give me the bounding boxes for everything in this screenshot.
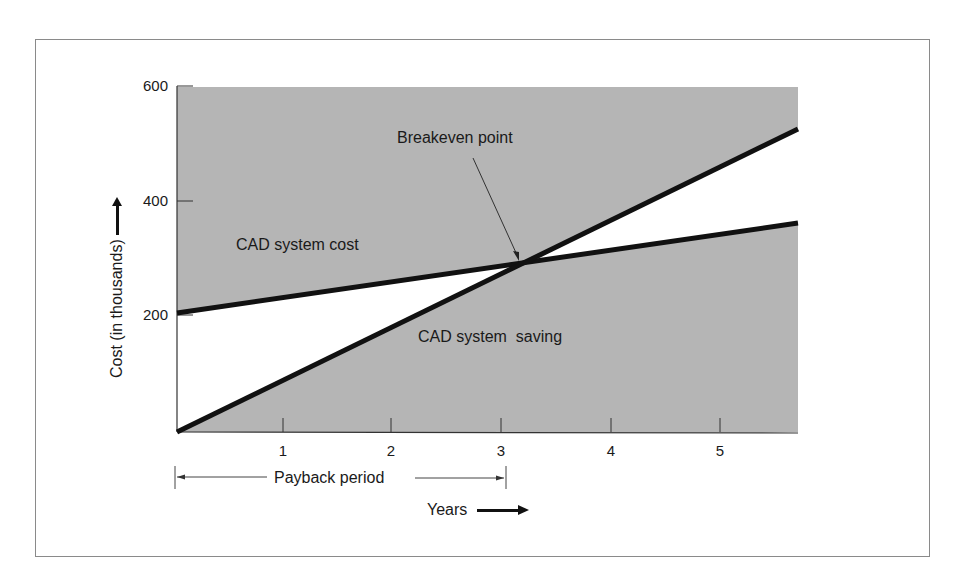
y-axis-title-text: Cost (in thousands) [108, 239, 126, 378]
xtick-label-5: 5 [710, 443, 730, 459]
payback-left-arrowhead [177, 475, 185, 480]
cost-series-label: CAD system cost [236, 236, 359, 254]
ytick-label-600: 600 [128, 78, 168, 94]
xtick-label-4: 4 [601, 443, 621, 459]
ytick-label-200: 200 [128, 307, 168, 323]
arrow-up-icon [116, 205, 119, 235]
ytick-label-400: 400 [128, 193, 168, 209]
xtick-label-1: 1 [273, 443, 293, 459]
x-axis-title-text: Years [427, 501, 467, 519]
arrow-right-icon [477, 509, 519, 512]
x-axis [177, 432, 798, 433]
breakeven-label: Breakeven point [397, 129, 513, 147]
xtick-label-2: 2 [381, 443, 401, 459]
x-axis-title: Years [427, 501, 519, 519]
xtick-label-3: 3 [491, 443, 511, 459]
y-axis-title: Cost (in thousands) [108, 205, 126, 378]
payback-period-label: Payback period [274, 469, 384, 487]
payback-right-arrowhead [496, 476, 504, 481]
saving-series-label: CAD system saving [418, 328, 562, 346]
